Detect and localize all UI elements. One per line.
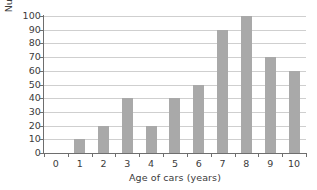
y-axis-tick <box>39 30 43 31</box>
x-axis-tick-label: 4 <box>139 158 163 170</box>
bar <box>74 139 85 153</box>
bar-chart: Number of cars 0102030405060708090100 01… <box>0 0 317 190</box>
x-axis-title: Age of cars (years) <box>44 172 306 183</box>
y-axis-tick-label: 50 <box>16 80 41 90</box>
bars-group <box>44 16 306 153</box>
x-axis-tick-label: 6 <box>187 158 211 170</box>
x-axis-tick <box>306 153 307 157</box>
y-axis-tick-label: 70 <box>16 52 41 62</box>
y-axis-tick <box>39 43 43 44</box>
x-axis-tick-labels: 012345678910 <box>44 158 306 171</box>
x-axis-tick <box>187 153 188 157</box>
x-axis-tick <box>163 153 164 157</box>
bar <box>289 71 300 153</box>
x-axis-tick <box>139 153 140 157</box>
bar <box>193 85 204 154</box>
y-axis-tick <box>39 153 43 154</box>
plot-area <box>44 16 306 153</box>
y-axis-tick-label: 10 <box>16 134 41 144</box>
x-axis-tick-label: 7 <box>211 158 235 170</box>
y-axis-tick-label: 0 <box>16 148 41 158</box>
x-axis-tick <box>235 153 236 157</box>
x-axis-tick <box>258 153 259 157</box>
y-axis-tick-label: 80 <box>16 38 41 48</box>
x-axis-tick <box>44 153 45 157</box>
x-axis-tick <box>92 153 93 157</box>
x-axis-tick-label: 5 <box>163 158 187 170</box>
y-axis-tick <box>39 139 43 140</box>
bar <box>146 126 157 153</box>
bar <box>98 126 109 153</box>
x-axis-tick-label: 9 <box>258 158 282 170</box>
y-axis-tick-label: 20 <box>16 121 41 131</box>
x-axis-tick <box>115 153 116 157</box>
y-axis-tick-label: 60 <box>16 66 41 76</box>
bar <box>122 98 133 153</box>
x-axis-tick <box>282 153 283 157</box>
x-axis-tick-label: 3 <box>115 158 139 170</box>
y-axis-tick-label: 90 <box>16 25 41 35</box>
bar <box>217 30 228 153</box>
y-axis-tick <box>39 71 43 72</box>
x-axis-tick-label: 2 <box>92 158 116 170</box>
x-axis-tick <box>211 153 212 157</box>
y-axis-tick <box>39 85 43 86</box>
bar <box>241 16 252 153</box>
y-axis-tick-labels: 0102030405060708090100 <box>16 10 41 160</box>
y-axis-tick <box>39 112 43 113</box>
bar <box>169 98 180 153</box>
x-axis-tick-label: 0 <box>44 158 68 170</box>
x-axis-tick-label: 1 <box>68 158 92 170</box>
x-axis-tick <box>68 153 69 157</box>
x-axis-tick-label: 10 <box>282 158 306 170</box>
y-axis-tick-label: 100 <box>16 11 41 21</box>
bar <box>265 57 276 153</box>
y-axis-tick <box>39 98 43 99</box>
x-axis-tick-label: 8 <box>235 158 259 170</box>
y-axis-tick <box>39 16 43 17</box>
y-axis-tick <box>39 126 43 127</box>
y-axis-tick-label: 40 <box>16 93 41 103</box>
y-axis-tick <box>39 57 43 58</box>
y-axis-title: Number of cars <box>2 0 16 44</box>
y-axis-title-wrapper: Number of cars <box>2 14 16 154</box>
y-axis-tick-label: 30 <box>16 107 41 117</box>
